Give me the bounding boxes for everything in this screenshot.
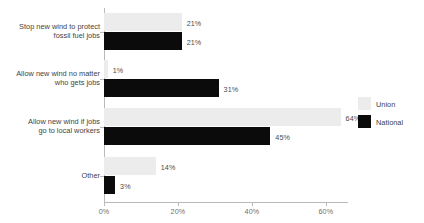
bar-value-union-3: 14%	[161, 163, 176, 172]
x-tick-0	[104, 202, 105, 206]
bar-value-union-0: 21%	[187, 19, 202, 28]
category-label-3: Other	[0, 171, 100, 181]
category-label-1: Allow new wind no matter who gets jobs	[0, 69, 100, 88]
bar-national-2[interactable]	[104, 127, 270, 145]
legend-label-union: Union	[376, 100, 395, 109]
x-tick-3	[326, 202, 327, 206]
bar-national-0[interactable]	[104, 32, 182, 50]
bar-value-national-0: 21%	[187, 38, 202, 47]
legend-label-national: National	[376, 118, 403, 127]
bar-union-0[interactable]	[104, 13, 182, 31]
bar-value-national-2: 45%	[275, 133, 290, 142]
bar-group-1: Allow new wind no matter who gets jobs1%…	[0, 60, 424, 97]
bar-value-national-1: 31%	[224, 85, 239, 94]
x-tick-label-0: 0%	[99, 207, 110, 216]
category-label-0: Stop new wind to protect fossil fuel job…	[0, 22, 100, 41]
bar-value-national-3: 3%	[120, 182, 131, 191]
x-tick-2	[252, 202, 253, 206]
bar-union-1[interactable]	[104, 60, 108, 78]
x-axis-line	[104, 202, 348, 203]
x-tick-label-3: 60%	[318, 207, 333, 216]
bar-group-0: Stop new wind to protect fossil fuel job…	[0, 13, 424, 50]
x-tick-label-2: 40%	[245, 207, 260, 216]
legend-swatch-union-icon	[358, 97, 371, 110]
bar-union-3[interactable]	[104, 157, 156, 175]
bar-value-union-1: 1%	[113, 66, 124, 75]
x-tick-label-1: 20%	[171, 207, 186, 216]
bar-national-1[interactable]	[104, 79, 219, 97]
x-tick-1	[178, 202, 179, 206]
bar-chart: 0%20%40%60% Stop new wind to protect fos…	[0, 0, 424, 223]
bar-union-2[interactable]	[104, 108, 341, 126]
legend-swatch-national-icon	[358, 115, 371, 128]
category-label-2: Allow new wind if jobs go to local worke…	[0, 117, 100, 136]
bar-group-3: Other14%3%	[0, 157, 424, 194]
bar-national-3[interactable]	[104, 176, 115, 194]
